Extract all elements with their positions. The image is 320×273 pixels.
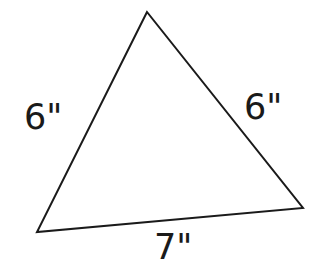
bottom-side-length-label: 7" <box>154 230 192 265</box>
left-side-length-label: 6" <box>24 100 62 135</box>
right-side-length-label: 6" <box>244 90 282 125</box>
